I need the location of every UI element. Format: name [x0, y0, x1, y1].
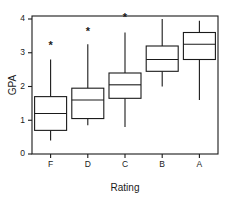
x-axis-title: Rating — [111, 182, 140, 193]
box-iqr-a — [183, 33, 215, 60]
box-plot-figure: 01234FDCBARatingGPA*** — [0, 0, 230, 200]
x-axis-tick-label-a: A — [197, 159, 203, 169]
box-iqr-b — [146, 46, 178, 71]
y-axis-tick-label: 0 — [20, 148, 25, 158]
chart-canvas: 01234FDCBARatingGPA*** — [0, 0, 230, 200]
box-iqr-d — [72, 88, 104, 118]
x-axis-tick-label-f: F — [48, 159, 53, 169]
y-axis-tick-label: 4 — [20, 13, 25, 23]
x-axis-tick-label-c: C — [122, 159, 128, 169]
box-group-a — [183, 21, 215, 100]
y-axis-title: GPA — [7, 74, 18, 95]
box-group-d: * — [72, 25, 104, 125]
significance-star-f: * — [48, 39, 53, 51]
y-axis-tick-label: 1 — [20, 115, 25, 125]
significance-star-d: * — [86, 25, 91, 37]
x-axis-tick-label-d: D — [85, 159, 91, 169]
y-axis-tick-label: 2 — [20, 81, 25, 91]
box-iqr-c — [109, 73, 141, 98]
box-group-c: * — [109, 11, 141, 127]
x-axis-tick-label-b: B — [159, 159, 165, 169]
box-group-b — [146, 19, 178, 87]
significance-star-c: * — [123, 11, 128, 23]
box-group-f: * — [35, 39, 67, 141]
y-axis-tick-label: 3 — [20, 47, 25, 57]
